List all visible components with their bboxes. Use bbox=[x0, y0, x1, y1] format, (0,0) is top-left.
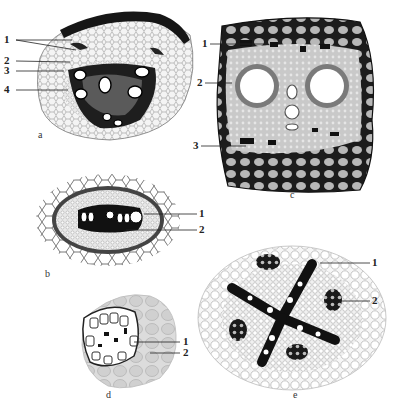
panel-b-section bbox=[36, 174, 197, 266]
panel-e-callout-2: 2 bbox=[372, 295, 378, 306]
panel-c-callout-2: 2 bbox=[197, 77, 203, 88]
panel-d-callout-2: 2 bbox=[183, 347, 189, 358]
panel-c-label: c bbox=[290, 190, 294, 200]
panel-a-callout-4: 4 bbox=[4, 84, 10, 95]
panel-a-callout-3: 3 bbox=[4, 65, 10, 76]
panel-a-callout-1: 1 bbox=[4, 34, 10, 45]
panel-b-callout-2: 2 bbox=[199, 224, 205, 235]
root-cross-sections-figure bbox=[0, 0, 394, 411]
panel-a-label: a bbox=[38, 130, 42, 140]
panel-c-section bbox=[201, 18, 374, 192]
panel-e-callout-1: 1 bbox=[372, 257, 378, 268]
panel-e-section bbox=[198, 246, 386, 390]
panel-c-callout-3: 3 bbox=[193, 140, 199, 151]
panel-d-label: d bbox=[106, 390, 111, 400]
panel-c-callout-1: 1 bbox=[202, 38, 208, 49]
panel-b-label: b bbox=[45, 269, 50, 279]
panel-d-section bbox=[82, 295, 180, 388]
panel-b-callout-1: 1 bbox=[199, 208, 205, 219]
panel-e-label: e bbox=[293, 390, 297, 400]
panel-a-section bbox=[16, 12, 193, 140]
